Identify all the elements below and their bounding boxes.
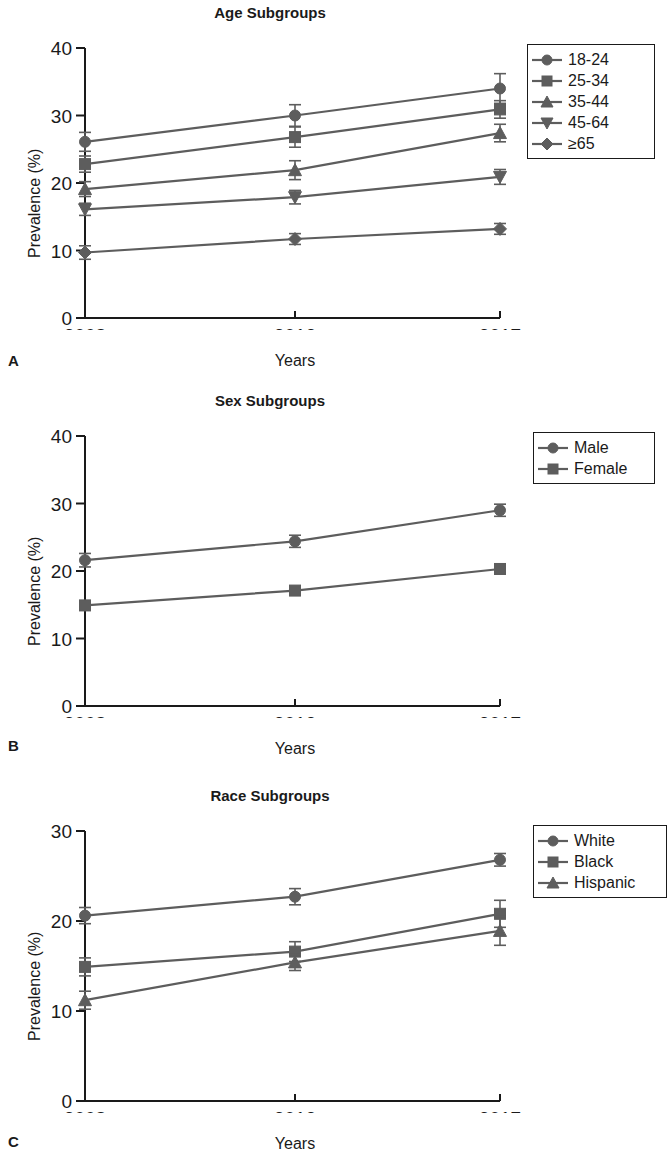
legend-item-label: 35-44 xyxy=(562,94,609,110)
legend-marker-triangle-down-icon xyxy=(532,114,562,132)
svg-text:30: 30 xyxy=(51,821,72,842)
legend-item-2534: 25-34 xyxy=(532,70,648,91)
panel-race-subgroups: Race Subgroups Prevalence (%) Years C 01… xyxy=(0,773,663,1163)
legend-key xyxy=(532,51,562,69)
legend-item-white: White xyxy=(538,830,660,851)
panel-b-legend: MaleFemale xyxy=(533,432,655,484)
svg-text:2012: 2012 xyxy=(274,713,316,718)
legend-marker-circle-icon xyxy=(538,439,568,457)
svg-text:40: 40 xyxy=(51,426,72,447)
svg-text:2017: 2017 xyxy=(479,1108,521,1113)
legend-item-1824: 18-24 xyxy=(532,49,648,70)
svg-text:2008: 2008 xyxy=(64,1108,106,1113)
legend-item-hispanic: Hispanic xyxy=(538,872,660,893)
legend-item-65: ≥65 xyxy=(532,133,648,154)
legend-item-label: White xyxy=(568,833,615,849)
legend-marker-circle-icon xyxy=(532,51,562,69)
legend-marker-triangle-up-icon xyxy=(532,93,562,111)
legend-marker-square-icon xyxy=(538,853,568,871)
svg-text:10: 10 xyxy=(51,629,72,650)
legend-marker-square-icon xyxy=(538,460,568,478)
legend-item-label: Male xyxy=(568,440,609,456)
svg-text:30: 30 xyxy=(51,494,72,515)
legend-key xyxy=(538,460,568,478)
legend-key xyxy=(538,439,568,457)
svg-text:2008: 2008 xyxy=(64,713,106,718)
legend-marker-square-icon xyxy=(532,72,562,90)
legend-item-label: Black xyxy=(568,854,613,870)
legend-marker-triangle-up-icon xyxy=(538,874,568,892)
legend-item-3544: 35-44 xyxy=(532,91,648,112)
legend-key xyxy=(538,832,568,850)
panel-a-x-axis-label: Years xyxy=(195,352,395,370)
legend-marker-diamond-icon xyxy=(532,135,562,153)
legend-item-male: Male xyxy=(538,437,648,458)
panel-c-plot: 0102030200820122017 xyxy=(0,783,540,1113)
legend-item-label: 25-34 xyxy=(562,73,609,89)
panel-a-legend: 18-2425-3435-4445-64≥65 xyxy=(527,44,655,159)
panel-a-plot: 010203040200820122017 xyxy=(0,0,540,330)
svg-text:30: 30 xyxy=(51,106,72,127)
legend-key xyxy=(538,874,568,892)
svg-text:20: 20 xyxy=(51,911,72,932)
panel-c-letter: C xyxy=(8,1133,19,1150)
legend-item-label: 45-64 xyxy=(562,115,609,131)
panel-a-letter: A xyxy=(8,352,19,369)
legend-key xyxy=(532,72,562,90)
legend-item-female: Female xyxy=(538,458,648,479)
svg-text:2008: 2008 xyxy=(64,325,106,330)
legend-key xyxy=(532,135,562,153)
legend-key xyxy=(532,93,562,111)
panel-b-plot: 010203040200820122017 xyxy=(0,388,540,718)
svg-text:10: 10 xyxy=(51,1001,72,1022)
panel-c-legend: WhiteBlackHispanic xyxy=(533,825,667,898)
legend-key xyxy=(538,853,568,871)
legend-item-label: Female xyxy=(568,461,627,477)
panel-age-subgroups: Age Subgroups Prevalence (%) Years A 010… xyxy=(0,0,663,388)
panel-b-letter: B xyxy=(8,737,19,754)
svg-text:2017: 2017 xyxy=(479,713,521,718)
svg-text:2017: 2017 xyxy=(479,325,521,330)
legend-key xyxy=(532,114,562,132)
legend-item-label: 18-24 xyxy=(562,52,609,68)
svg-text:20: 20 xyxy=(51,561,72,582)
legend-item-4564: 45-64 xyxy=(532,112,648,133)
panel-c-x-axis-label: Years xyxy=(195,1135,395,1153)
svg-text:20: 20 xyxy=(51,173,72,194)
svg-text:40: 40 xyxy=(51,38,72,59)
svg-text:10: 10 xyxy=(51,241,72,262)
legend-marker-circle-icon xyxy=(538,832,568,850)
panel-b-x-axis-label: Years xyxy=(195,740,395,758)
legend-item-black: Black xyxy=(538,851,660,872)
svg-text:2012: 2012 xyxy=(274,325,316,330)
legend-item-label: ≥65 xyxy=(562,136,595,152)
legend-item-label: Hispanic xyxy=(568,875,635,891)
panel-sex-subgroups: Sex Subgroups Prevalence (%) Years B 010… xyxy=(0,388,663,773)
svg-text:2012: 2012 xyxy=(274,1108,316,1113)
